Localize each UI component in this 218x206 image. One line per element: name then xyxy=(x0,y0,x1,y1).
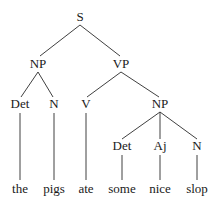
leaf-word-some: some xyxy=(108,181,136,196)
edge-vp-v xyxy=(87,72,121,97)
node-det: Det xyxy=(11,96,30,111)
leaf-word-ate: ate xyxy=(78,181,93,196)
node-det: Det xyxy=(113,138,132,153)
node-np: NP xyxy=(152,96,169,111)
edge-np2-det2 xyxy=(122,112,160,139)
tree-edges xyxy=(20,25,197,180)
node-n: N xyxy=(192,138,202,153)
node-n: N xyxy=(49,96,59,111)
edge-vp-np2 xyxy=(121,72,159,97)
node-np: NP xyxy=(30,56,47,71)
edge-s-np1 xyxy=(40,25,80,56)
node-v: V xyxy=(81,96,91,111)
leaf-word-slop: slop xyxy=(186,181,208,196)
tree-nodes: SNPVPDetNVNPDetAjN xyxy=(11,9,203,153)
tree-leaves: thepigsatesomeniceslop xyxy=(12,181,208,196)
leaf-word-pigs: pigs xyxy=(43,181,65,196)
node-vp: VP xyxy=(113,56,130,71)
syntax-tree-diagram: SNPVPDetNVNPDetAjN thepigsatesomeniceslo… xyxy=(0,0,218,206)
edge-s-vp xyxy=(80,25,120,56)
leaf-word-nice: nice xyxy=(149,181,171,196)
edge-np1-det1 xyxy=(21,72,38,97)
leaf-word-the: the xyxy=(12,181,28,196)
node-aj: Aj xyxy=(154,138,167,153)
node-s: S xyxy=(76,9,83,24)
edge-np1-n1 xyxy=(38,72,53,97)
edge-np2-n2 xyxy=(160,112,197,139)
